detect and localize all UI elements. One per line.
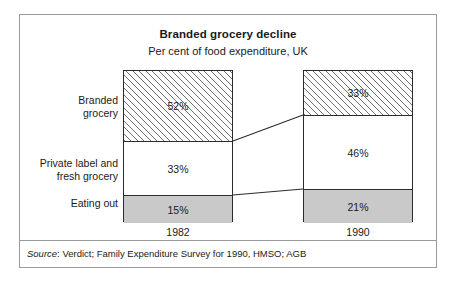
chart-title: Branded grocery decline [20, 28, 436, 40]
figure-frame: Branded grocery decline Per cent of food… [19, 14, 437, 268]
chart-subtitle: Per cent of food expenditure, UK [20, 45, 436, 57]
